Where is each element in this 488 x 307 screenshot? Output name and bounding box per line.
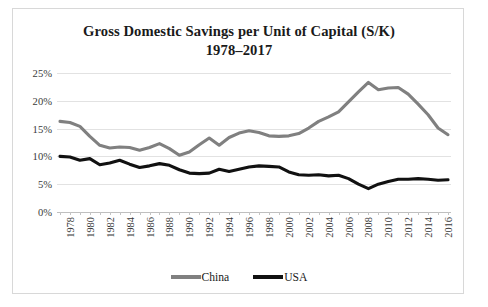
y-axis-tick-label: 15%	[12, 123, 52, 134]
x-axis-tick	[189, 212, 190, 215]
x-axis-tick	[169, 212, 170, 215]
x-axis-tick	[408, 212, 409, 215]
x-axis-tick-label: 2012	[403, 217, 414, 238]
legend-swatch-china	[171, 275, 201, 279]
x-axis-tick	[299, 212, 300, 215]
y-axis-tick-label: 5%	[12, 179, 52, 190]
x-axis-tick	[438, 212, 439, 215]
y-axis-labels: 25%20%15%10%5%0%	[13, 73, 52, 212]
x-axis-tick	[249, 212, 250, 215]
x-axis-tick	[60, 212, 61, 215]
legend-label: China	[202, 271, 230, 284]
x-axis-tick-label: 2006	[344, 217, 355, 238]
x-axis-tick	[90, 212, 91, 215]
series-line-usa	[60, 156, 448, 188]
x-axis-tick	[279, 212, 280, 215]
x-axis-tick	[398, 212, 399, 215]
y-axis-tick-label: 20%	[12, 95, 52, 106]
x-axis-tick-label: 1986	[145, 217, 156, 238]
chart-legend: ChinaUSA	[13, 267, 465, 287]
x-axis-tick	[289, 212, 290, 215]
x-axis-tick	[70, 212, 71, 215]
x-axis-tick-label: 1990	[184, 217, 195, 238]
x-axis-tick	[80, 212, 81, 215]
x-axis-tick	[259, 212, 260, 215]
x-axis-tick	[199, 212, 200, 215]
x-axis-tick-label: 1978	[65, 217, 76, 238]
x-axis-tick-label: 1982	[105, 217, 116, 238]
y-axis-tick-label: 0%	[12, 207, 52, 218]
series-lines	[57, 73, 451, 212]
chart-card: Gross Domestic Savings per Unit of Capit…	[12, 8, 464, 294]
legend-item-usa[interactable]: USA	[253, 271, 307, 284]
x-axis-tick	[229, 212, 230, 215]
x-axis-tick	[219, 212, 220, 215]
x-axis-tick	[130, 212, 131, 215]
x-axis-tick-label: 1980	[85, 217, 96, 238]
x-axis-tick	[179, 212, 180, 215]
y-axis-tick-label: 10%	[12, 151, 52, 162]
x-axis-tick	[368, 212, 369, 215]
x-axis-tick	[150, 212, 151, 215]
x-axis-tick	[239, 212, 240, 215]
x-axis-tick-label: 1996	[244, 217, 255, 238]
x-axis-tick-label: 2010	[383, 217, 394, 238]
x-axis-tick-label: 1998	[264, 217, 275, 238]
x-axis-tick	[269, 212, 270, 215]
series-line-china	[60, 82, 448, 155]
x-axis-tick-label: 2004	[324, 217, 335, 238]
x-axis-tick	[140, 212, 141, 215]
plot-area	[57, 73, 451, 212]
x-axis-tick-label: 1994	[224, 217, 235, 238]
x-axis-tick-marks	[57, 212, 451, 216]
chart-title: Gross Domestic Savings per Unit of Capit…	[13, 22, 465, 60]
x-axis-tick-label: 1984	[125, 217, 136, 238]
x-axis-tick	[448, 212, 449, 215]
x-axis-tick-label: 2014	[423, 217, 434, 238]
x-axis-tick	[159, 212, 160, 215]
legend-swatch-usa	[253, 275, 283, 279]
x-axis-tick-label: 1988	[164, 217, 175, 238]
x-axis-tick	[428, 212, 429, 215]
x-axis-tick	[309, 212, 310, 215]
x-axis-tick	[418, 212, 419, 215]
x-axis-tick-label: 2000	[284, 217, 295, 238]
x-axis-tick	[358, 212, 359, 215]
y-axis-tick-label: 25%	[12, 68, 52, 79]
x-axis-tick	[339, 212, 340, 215]
chart-title-line1: Gross Domestic Savings per Unit of Capit…	[83, 23, 395, 39]
x-axis-tick	[388, 212, 389, 215]
chart-title-line2: 1978–2017	[13, 41, 465, 60]
x-axis-tick	[378, 212, 379, 215]
x-axis-tick-label: 2008	[363, 217, 374, 238]
x-axis-tick	[100, 212, 101, 215]
x-axis-tick	[110, 212, 111, 215]
x-axis-tick-label: 1992	[204, 217, 215, 238]
legend-item-china[interactable]: China	[171, 271, 230, 284]
x-axis-labels: 1978198019821984198619881990199219941996…	[57, 217, 451, 263]
x-axis-tick	[120, 212, 121, 215]
x-axis-tick	[349, 212, 350, 215]
x-axis-tick-label: 2002	[304, 217, 315, 238]
x-axis-tick	[209, 212, 210, 215]
x-axis-tick-label: 2016	[443, 217, 454, 238]
x-axis-tick	[329, 212, 330, 215]
legend-label: USA	[284, 271, 307, 284]
x-axis-tick	[319, 212, 320, 215]
